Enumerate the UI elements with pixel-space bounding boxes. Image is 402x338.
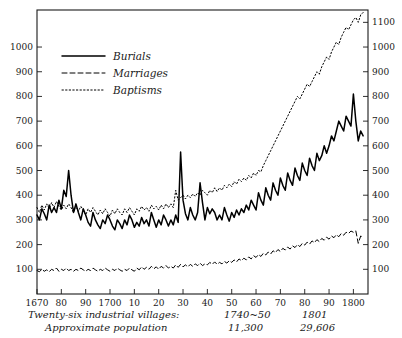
legend-label-baptisms: Baptisms [112, 84, 163, 96]
y-tick-label-right: 100 [372, 264, 389, 274]
x-tick-label: 1800 [342, 298, 365, 308]
y-tick-label-left: 800 [16, 91, 33, 101]
caption-line2: Approximate population [44, 322, 167, 333]
x-tick-label: 20 [153, 298, 165, 308]
x-tick-label: 1670 [26, 298, 49, 308]
chart-container: 1002003004005006007008009001000 10020030… [0, 0, 402, 338]
chart-background [0, 0, 402, 338]
y-tick-label-right: 400 [372, 190, 389, 200]
y-tick-label-right: 900 [372, 67, 389, 77]
birth-death-chart: 1002003004005006007008009001000 10020030… [0, 0, 402, 338]
legend-label-marriages: Marriages [112, 67, 169, 79]
y-tick-label-right: 1100 [372, 17, 395, 27]
x-tick-label: 90 [80, 298, 92, 308]
x-tick-label: 50 [226, 298, 238, 308]
y-tick-label-left: 100 [16, 264, 33, 274]
y-tick-label-left: 900 [16, 67, 33, 77]
x-tick-label: 40 [202, 298, 214, 308]
x-tick-label: 70 [275, 298, 287, 308]
y-tick-label-right: 500 [372, 166, 389, 176]
y-tick-label-left: 1000 [10, 42, 33, 52]
y-tick-label-left: 400 [16, 190, 33, 200]
y-tick-label-right: 600 [372, 141, 389, 151]
y-tick-label-left: 500 [16, 166, 33, 176]
x-tick-label: 90 [323, 298, 335, 308]
y-tick-label-right: 200 [372, 240, 389, 250]
y-tick-label-right: 300 [372, 215, 389, 225]
y-tick-label-left: 200 [16, 240, 33, 250]
y-tick-label-left: 300 [16, 215, 33, 225]
caption-col1-value: 11,300 [228, 322, 264, 333]
caption-col1-header: 1740~50 [224, 309, 271, 320]
caption-line1: Twenty-six industrial villages: [28, 309, 179, 320]
x-tick-label: 80 [299, 298, 311, 308]
x-tick-label: 60 [250, 298, 262, 308]
x-tick-label: 1700 [99, 298, 122, 308]
x-tick-label: 10 [129, 298, 141, 308]
y-tick-label-right: 700 [372, 116, 389, 126]
y-tick-label-left: 700 [16, 116, 33, 126]
legend-label-burials: Burials [112, 50, 151, 62]
y-tick-label-right: 800 [372, 91, 389, 101]
caption-col2-header: 1801 [302, 309, 327, 320]
y-tick-label-left: 600 [16, 141, 33, 151]
x-tick-label: 30 [177, 298, 189, 308]
x-tick-label: 80 [56, 298, 68, 308]
caption-col2-value: 29,606 [299, 322, 336, 333]
y-tick-label-right: 1000 [372, 42, 395, 52]
